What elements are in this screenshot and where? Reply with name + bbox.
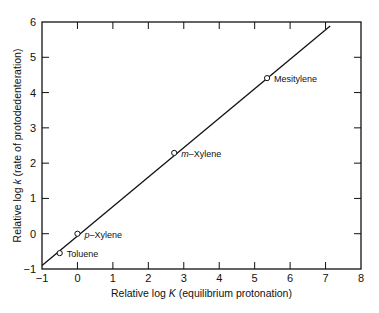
- x-tick-label: 8: [358, 272, 364, 284]
- data-point-label: p–Xylene: [83, 230, 122, 240]
- y-axis-label: Relative log k (rate of protodedenterati…: [11, 49, 23, 243]
- y-tick-label: 6: [30, 16, 36, 28]
- data-point-label: m–Xylene: [181, 149, 221, 159]
- x-tick-label: 5: [252, 272, 258, 284]
- x-tick-label: 1: [110, 272, 116, 284]
- chart: Toluenep–Xylenem–XyleneMesitylene −10123…: [0, 0, 379, 313]
- data-point-label: Toluene: [67, 249, 99, 259]
- x-axis-label: Relative log K (equilibrium protonation): [111, 287, 292, 299]
- x-tick-label: 7: [322, 272, 328, 284]
- data-point-marker: [264, 76, 269, 81]
- y-tick-label: 3: [30, 122, 36, 134]
- x-tick-label: 4: [216, 272, 222, 284]
- data-point-marker: [75, 231, 80, 236]
- y-tick-label: 2: [30, 157, 36, 169]
- y-tick-label: −1: [23, 263, 36, 275]
- y-tick-label: 1: [30, 192, 36, 204]
- y-tick-label: 4: [30, 87, 36, 99]
- data-point-marker: [172, 150, 177, 155]
- x-tick-label: 2: [145, 272, 151, 284]
- y-tick-label: 5: [30, 51, 36, 63]
- data-point-marker: [57, 251, 62, 256]
- x-tick-label: 6: [287, 272, 293, 284]
- y-tick-label: 0: [30, 228, 36, 240]
- data-points: Toluenep–Xylenem–XyleneMesitylene: [57, 74, 317, 259]
- data-point-label: Mesitylene: [274, 74, 317, 84]
- x-tick-label: 3: [181, 272, 187, 284]
- x-tick-label: 0: [74, 272, 80, 284]
- x-tick-label: −1: [36, 272, 49, 284]
